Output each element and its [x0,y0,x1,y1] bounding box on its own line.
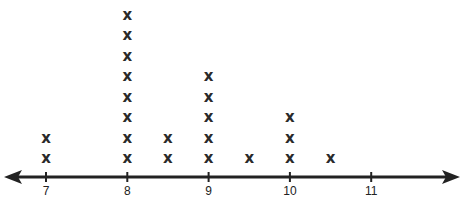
x-mark: x [120,49,134,64]
x-mark: x [324,151,338,166]
x-mark: x [202,69,216,84]
x-mark: x [283,110,297,125]
x-mark: x [39,131,53,146]
x-mark: x [39,151,53,166]
x-mark: x [120,69,134,84]
line-plot: 7891011 xxxxxxxxxxxxxxxxxxxxxx [0,0,474,210]
x-mark: x [120,110,134,125]
x-mark: x [120,151,134,166]
x-mark: x [202,110,216,125]
x-mark: x [242,151,256,166]
x-mark: x [283,151,297,166]
x-mark: x [283,131,297,146]
x-mark: x [202,151,216,166]
number-line [0,0,474,210]
x-mark: x [120,131,134,146]
tick-label: 9 [194,184,224,198]
x-mark: x [120,8,134,23]
x-mark: x [202,131,216,146]
x-mark: x [202,90,216,105]
tick-label: 11 [356,184,386,198]
x-mark: x [161,151,175,166]
x-mark: x [161,131,175,146]
tick-label: 10 [275,184,305,198]
x-mark: x [120,90,134,105]
tick-label: 8 [112,184,142,198]
x-mark: x [120,28,134,43]
tick-label: 7 [31,184,61,198]
